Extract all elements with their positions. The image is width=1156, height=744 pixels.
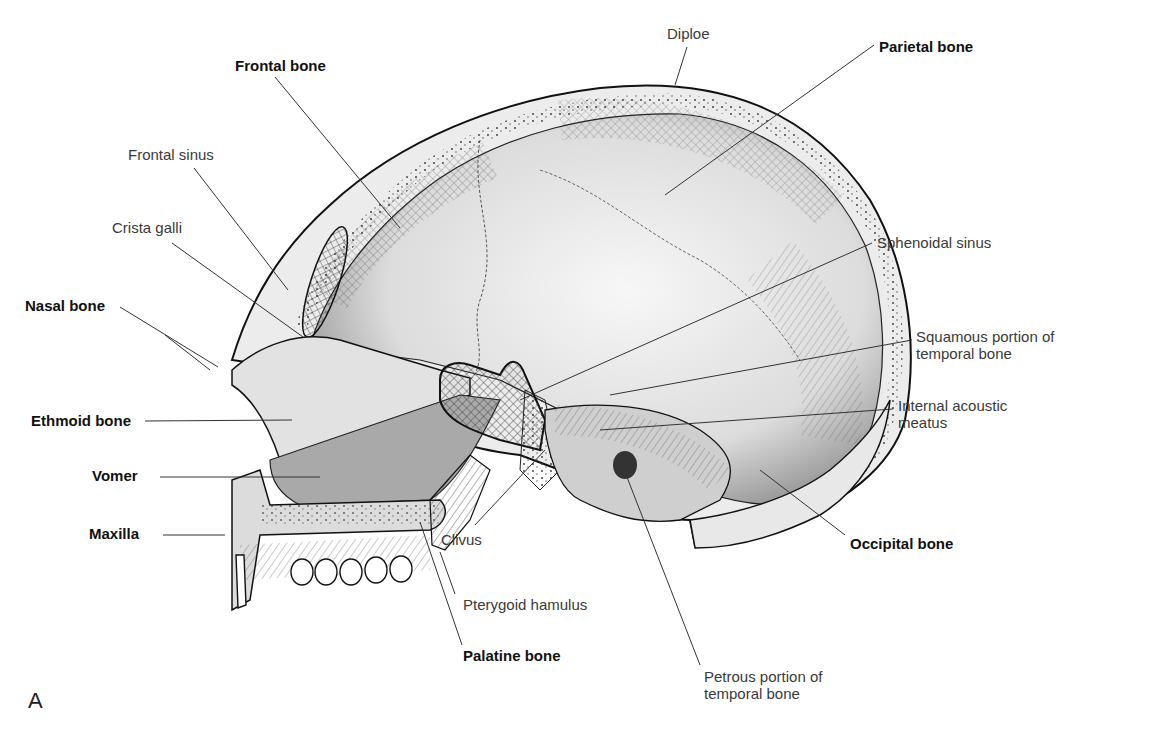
label-sphenoidal-sinus: Sphenoidal sinus bbox=[877, 234, 991, 251]
label-palatine-bone: Palatine bone bbox=[463, 647, 561, 664]
label-petrous-temporal: Petrous portion of temporal bone bbox=[704, 668, 822, 702]
skull-illustration bbox=[0, 0, 1156, 744]
label-parietal-bone: Parietal bone bbox=[879, 38, 973, 55]
skull-sagittal-diagram: Diploe Parietal bone Frontal bone Fronta… bbox=[0, 0, 1156, 744]
label-occipital-bone: Occipital bone bbox=[850, 535, 953, 552]
label-frontal-sinus: Frontal sinus bbox=[128, 146, 214, 163]
panel-letter: A bbox=[28, 688, 43, 714]
label-clivus: Clivus bbox=[441, 531, 482, 548]
label-squamous-temporal: Squamous portion of temporal bone bbox=[916, 328, 1054, 362]
label-internal-acoustic-meatus: Internal acoustic meatus bbox=[898, 397, 1007, 431]
label-ethmoid-bone: Ethmoid bone bbox=[31, 412, 131, 429]
label-diploe: Diploe bbox=[667, 25, 710, 42]
label-crista-galli: Crista galli bbox=[112, 219, 182, 236]
label-maxilla: Maxilla bbox=[89, 525, 139, 542]
label-pterygoid-hamulus: Pterygoid hamulus bbox=[463, 596, 587, 613]
label-frontal-bone: Frontal bone bbox=[235, 57, 326, 74]
label-nasal-bone: Nasal bone bbox=[25, 297, 105, 314]
label-vomer: Vomer bbox=[92, 467, 138, 484]
